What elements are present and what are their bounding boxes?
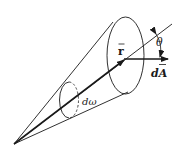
cone-upper-edge	[14, 22, 113, 144]
d-omega-label: dω	[82, 96, 97, 107]
solid-angle-diagram: r θ dA dω	[0, 0, 185, 154]
dA-label: dA	[151, 67, 168, 80]
theta-label: θ	[156, 36, 163, 49]
area-ellipse	[107, 17, 144, 94]
r-vector	[14, 60, 124, 144]
solid-angle-ellipse-front	[60, 82, 70, 118]
r-vector-label: r	[118, 45, 124, 58]
